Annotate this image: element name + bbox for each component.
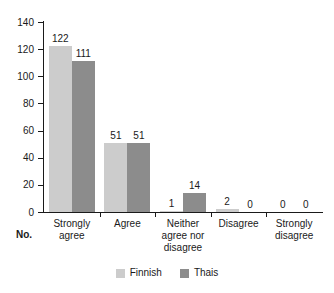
bar-value-label: 51 xyxy=(110,131,121,141)
bar-group: 5151 xyxy=(104,22,150,212)
legend-label: Thais xyxy=(194,268,218,278)
bar-thais: 14 xyxy=(183,193,206,212)
y-axis-tick-label: 20 xyxy=(23,180,34,190)
x-axis-category-label: Stronglydisagree xyxy=(266,218,322,242)
legend-swatch-icon xyxy=(180,269,189,278)
bar-finnish: 1 xyxy=(160,211,183,212)
x-axis-category-label: Disagree xyxy=(211,218,267,230)
bar-chart: 020406080100120140 12211151511142000 Str… xyxy=(0,0,334,293)
bar-value-label: 14 xyxy=(189,181,200,191)
y-axis-tick-label: 60 xyxy=(23,126,34,136)
plot-area: 12211151511142000 xyxy=(44,22,322,212)
x-axis-tick-mark xyxy=(100,212,101,217)
bar-finnish: 2 xyxy=(216,209,239,212)
y-axis-tick: 0 xyxy=(38,212,44,213)
category-label-line: Strongly xyxy=(44,218,100,230)
bar-value-label: 2 xyxy=(224,197,230,207)
x-axis-tick-mark xyxy=(155,212,156,217)
chart-legend: FinnishThais xyxy=(0,268,334,278)
category-label-line: disagree xyxy=(155,242,211,254)
legend-swatch-icon xyxy=(116,269,125,278)
category-label-line: Disagree xyxy=(211,218,267,230)
category-label-line: agree xyxy=(44,230,100,242)
x-axis-line xyxy=(43,212,323,213)
bar-finnish: 122 xyxy=(49,46,72,212)
x-axis-category-label: Stronglyagree xyxy=(44,218,100,242)
category-label-line: Neither xyxy=(155,218,211,230)
legend-label: Finnish xyxy=(130,268,162,278)
legend-item-thais[interactable]: Thais xyxy=(180,268,218,278)
bar-thais: 111 xyxy=(72,61,95,212)
bar-finnish: 51 xyxy=(104,143,127,212)
bar-value-label: 0 xyxy=(280,200,286,210)
bar-value-label: 1 xyxy=(169,199,175,209)
bar-value-label: 111 xyxy=(76,49,91,59)
bar-value-label: 51 xyxy=(133,131,144,141)
category-label-line: disagree xyxy=(266,230,322,242)
y-axis-tick-mark xyxy=(38,212,44,213)
x-axis-category-label: Neitheragree nordisagree xyxy=(155,218,211,254)
category-label-line: Agree xyxy=(100,218,156,230)
bar-value-label: 122 xyxy=(52,34,69,44)
bar-value-label: 0 xyxy=(247,200,253,210)
legend-item-finnish[interactable]: Finnish xyxy=(116,268,162,278)
bar-group: 00 xyxy=(271,22,317,212)
category-label-line: Strongly xyxy=(266,218,322,230)
bar-group: 114 xyxy=(160,22,206,212)
y-axis-tick-label: 80 xyxy=(23,99,34,109)
x-axis-category-label: Agree xyxy=(100,218,156,230)
y-axis-tick-label: 0 xyxy=(28,208,34,218)
y-axis-tick-label: 100 xyxy=(17,72,34,82)
bar-thais: 51 xyxy=(127,143,150,212)
y-axis-tick-label: 40 xyxy=(23,153,34,163)
category-label-line: agree nor xyxy=(155,230,211,242)
y-axis-tick-label: 120 xyxy=(17,45,34,55)
x-axis-tick-mark xyxy=(266,212,267,217)
axis-no-label: No. xyxy=(16,230,32,240)
bar-value-label: 0 xyxy=(303,200,309,210)
bar-group: 122111 xyxy=(49,22,95,212)
y-axis-tick-label: 140 xyxy=(17,18,34,28)
bar-group: 20 xyxy=(216,22,262,212)
x-axis-tick-mark xyxy=(211,212,212,217)
